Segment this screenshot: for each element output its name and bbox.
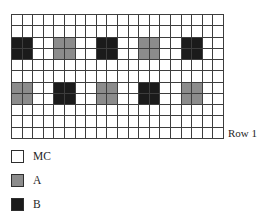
grid-cell xyxy=(76,94,87,105)
grid-cell xyxy=(86,94,97,105)
grid-cell xyxy=(12,116,23,127)
grid-cell xyxy=(97,71,108,82)
grid-cell xyxy=(129,105,140,116)
grid-cell xyxy=(12,26,23,37)
grid-cell xyxy=(65,60,76,71)
grid-cell xyxy=(54,83,65,94)
grid-cell xyxy=(76,26,87,37)
grid-cell xyxy=(97,83,108,94)
grid-cell xyxy=(33,15,44,26)
grid-cell xyxy=(44,94,55,105)
grid-cell xyxy=(160,128,171,139)
grid-cell xyxy=(203,94,214,105)
grid-cell xyxy=(160,105,171,116)
grid-cell xyxy=(171,83,182,94)
grid-cell xyxy=(44,38,55,49)
grid-cell xyxy=(76,38,87,49)
grid-cell xyxy=(12,105,23,116)
grid-cell xyxy=(160,26,171,37)
grid-cell xyxy=(192,94,203,105)
grid-cell xyxy=(97,26,108,37)
grid-cell xyxy=(213,71,224,82)
grid-cell xyxy=(118,83,129,94)
grid-cell xyxy=(97,38,108,49)
grid-cell xyxy=(65,83,76,94)
grid-cell xyxy=(118,38,129,49)
grid-cell xyxy=(86,71,97,82)
grid-cell xyxy=(182,26,193,37)
grid-cell xyxy=(107,26,118,37)
grid-cell xyxy=(107,60,118,71)
grid-cell xyxy=(129,83,140,94)
grid-cell xyxy=(129,60,140,71)
grid-cell xyxy=(44,60,55,71)
grid-cell xyxy=(171,116,182,127)
grid-cell xyxy=(171,94,182,105)
grid-cell xyxy=(150,38,161,49)
grid-cell xyxy=(203,49,214,60)
grid-cell xyxy=(107,15,118,26)
grid-cell xyxy=(203,26,214,37)
grid-cell xyxy=(44,83,55,94)
grid-cell xyxy=(139,94,150,105)
grid-cell xyxy=(182,94,193,105)
b-swatch xyxy=(11,198,24,211)
grid-cell xyxy=(150,26,161,37)
grid-cell xyxy=(203,60,214,71)
grid-cell xyxy=(65,49,76,60)
grid-cell xyxy=(150,128,161,139)
grid-cell xyxy=(118,71,129,82)
legend-label-mc: MC xyxy=(33,150,51,163)
grid-cell xyxy=(192,15,203,26)
grid-cell xyxy=(97,105,108,116)
grid-cell xyxy=(33,94,44,105)
grid-cell xyxy=(54,128,65,139)
grid-cell xyxy=(54,94,65,105)
grid-cell xyxy=(44,116,55,127)
grid-cell xyxy=(12,38,23,49)
grid-cell xyxy=(118,128,129,139)
grid-cell xyxy=(44,128,55,139)
grid-cell xyxy=(12,49,23,60)
grid-cell xyxy=(33,71,44,82)
grid-cell xyxy=(65,94,76,105)
grid-cell xyxy=(139,71,150,82)
grid-cell xyxy=(107,116,118,127)
grid-cell xyxy=(129,38,140,49)
grid-cell xyxy=(86,60,97,71)
grid-cell xyxy=(44,26,55,37)
grid-cell xyxy=(23,49,34,60)
grid-cell xyxy=(97,94,108,105)
grid-cell xyxy=(213,49,224,60)
grid-cell xyxy=(150,83,161,94)
grid-cell xyxy=(192,105,203,116)
grid-cell xyxy=(182,49,193,60)
grid-cell xyxy=(97,60,108,71)
composite-structure-figure: Row 1 MC A B xyxy=(0,0,258,222)
legend-item-mc: MC xyxy=(11,150,51,163)
grid-cell xyxy=(171,15,182,26)
grid-cell xyxy=(33,49,44,60)
legend: MC A B xyxy=(11,150,51,211)
grid-cell xyxy=(182,116,193,127)
grid-cell xyxy=(107,94,118,105)
grid-cell xyxy=(23,105,34,116)
grid-cell xyxy=(23,15,34,26)
grid-cell xyxy=(107,71,118,82)
grid-cell xyxy=(44,105,55,116)
grid-cell xyxy=(182,38,193,49)
grid-cell xyxy=(54,38,65,49)
grid-cell xyxy=(65,26,76,37)
grid-cell xyxy=(160,71,171,82)
grid-cell xyxy=(139,38,150,49)
grid-cell xyxy=(76,49,87,60)
grid-cell xyxy=(182,71,193,82)
grid-cell xyxy=(192,116,203,127)
grid-cell xyxy=(203,15,214,26)
grid-cell xyxy=(33,38,44,49)
grid-cell xyxy=(86,105,97,116)
grid-cell xyxy=(129,94,140,105)
grid-cell xyxy=(160,60,171,71)
grid-cell xyxy=(54,116,65,127)
grid-cell xyxy=(150,15,161,26)
